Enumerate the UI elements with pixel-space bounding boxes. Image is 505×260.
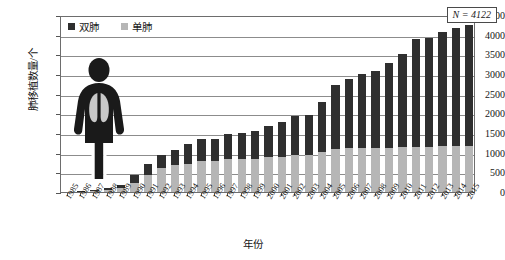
- legend: 双肺 单肺: [68, 19, 152, 34]
- bar-2008: [371, 71, 379, 192]
- y-axis-tick-mark: [56, 193, 61, 194]
- bar-2000: [264, 126, 272, 192]
- bar-segment-bilateral: [452, 28, 460, 146]
- bar-segment-bilateral: [144, 164, 152, 175]
- legend-item-bilateral: 双肺: [68, 19, 99, 34]
- bar-segment-bilateral: [425, 38, 433, 147]
- legend-label-single: 单肺: [132, 19, 152, 34]
- bar-2003: [305, 115, 313, 192]
- bar-segment-bilateral: [358, 74, 366, 148]
- bar-segment-bilateral: [412, 39, 420, 147]
- bar-2010: [398, 54, 406, 192]
- bar-segment-bilateral: [398, 54, 406, 147]
- bar-2015: [465, 25, 473, 192]
- y-axis-title: 肺移植数量/个: [28, 25, 39, 135]
- bar-2002: [291, 116, 299, 192]
- legend-swatch-single-icon: [121, 23, 128, 30]
- gridline: [61, 37, 474, 38]
- legend-label-bilateral: 双肺: [79, 19, 99, 34]
- bar-segment-bilateral: [264, 126, 272, 158]
- bar-2007: [358, 74, 366, 192]
- sample-size-annotation: N = 4122: [447, 7, 497, 23]
- bar-segment-bilateral: [251, 131, 259, 158]
- bar-segment-bilateral: [171, 150, 179, 166]
- bar-segment-bilateral: [371, 71, 379, 148]
- bar-segment-bilateral: [465, 25, 473, 146]
- bar-segment-bilateral: [197, 139, 205, 161]
- legend-item-single: 单肺: [121, 19, 152, 34]
- legend-swatch-bilateral-icon: [68, 23, 75, 30]
- bar-segment-bilateral: [238, 133, 246, 159]
- bar-segment-bilateral: [318, 102, 326, 153]
- bar-segment-bilateral: [291, 116, 299, 155]
- bar-2001: [278, 122, 286, 192]
- human-lungs-figure-icon: [70, 57, 128, 183]
- bar-2004: [318, 102, 326, 192]
- bar-2012: [425, 38, 433, 192]
- bar-2005: [331, 85, 339, 192]
- bar-segment-bilateral: [305, 115, 313, 155]
- bar-segment-bilateral: [331, 85, 339, 149]
- bar-2011: [412, 39, 420, 192]
- bar-segment-bilateral: [211, 139, 219, 161]
- bar-segment-bilateral: [184, 144, 192, 163]
- bar-segment-bilateral: [224, 134, 232, 160]
- x-axis-title: 年份: [0, 236, 505, 251]
- bar-2014: [452, 28, 460, 192]
- bar-segment-bilateral: [385, 63, 393, 148]
- bar-segment-bilateral: [438, 32, 446, 146]
- lung-transplant-bar-chart: 肺移植数量/个 05001000150020002500300035004000…: [0, 0, 505, 260]
- bar-segment-bilateral: [130, 175, 138, 182]
- bar-segment-bilateral: [157, 155, 165, 168]
- bar-segment-bilateral: [345, 79, 353, 149]
- bar-2009: [385, 63, 393, 192]
- bar-2013: [438, 32, 446, 192]
- bar-2006: [345, 79, 353, 192]
- bar-segment-bilateral: [278, 122, 286, 157]
